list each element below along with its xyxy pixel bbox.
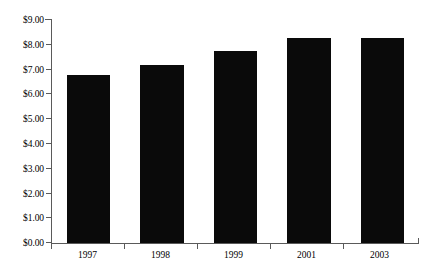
x-tick-label-2001: 2001	[270, 249, 343, 261]
bar-1998[interactable]	[140, 65, 183, 243]
bar-2003[interactable]	[361, 38, 404, 243]
y-tick-label: $3.00	[2, 164, 44, 174]
x-tick-label-1999: 1999	[197, 249, 270, 261]
plot-area	[52, 19, 419, 243]
y-tick-label: $8.00	[2, 40, 44, 50]
y-axis-labels: $9.00 $8.00 $7.00 $6.00 $5.00 $4.00 $3.0…	[0, 0, 44, 271]
bar-chart: $9.00 $8.00 $7.00 $6.00 $5.00 $4.00 $3.0…	[0, 0, 438, 271]
y-tick-label: $0.00	[2, 238, 44, 248]
x-axis-line	[51, 243, 419, 244]
y-tick-label: $7.00	[2, 65, 44, 75]
bar-2001[interactable]	[287, 38, 330, 243]
y-tick-label: $1.00	[2, 213, 44, 223]
y-tick-label: $6.00	[2, 89, 44, 99]
y-tick-label: $2.00	[2, 189, 44, 199]
y-tick-label: $9.00	[2, 15, 44, 25]
bar-1999[interactable]	[214, 51, 257, 243]
y-tick-label: $4.00	[2, 139, 44, 149]
y-tick-label: $5.00	[2, 114, 44, 124]
x-tick-label-2003: 2003	[343, 249, 416, 261]
x-tick-label-1997: 1997	[51, 249, 124, 261]
bar-1997[interactable]	[67, 75, 110, 243]
x-tick-label-1998: 1998	[124, 249, 197, 261]
